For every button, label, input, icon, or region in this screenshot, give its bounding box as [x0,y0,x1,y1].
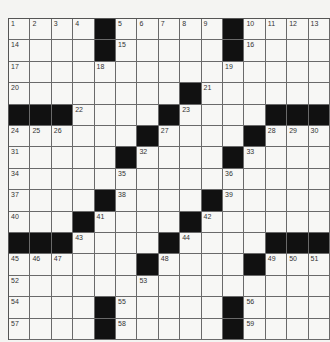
grid-cell[interactable] [52,190,73,211]
grid-cell[interactable] [266,319,287,340]
grid-cell[interactable]: 9 [202,19,223,40]
grid-cell[interactable] [159,169,180,190]
grid-cell[interactable] [73,83,94,104]
grid-cell[interactable] [223,126,244,147]
grid-cell[interactable] [52,40,73,61]
grid-cell[interactable]: 57 [9,319,30,340]
grid-cell[interactable] [202,319,223,340]
grid-cell[interactable] [180,169,201,190]
grid-cell[interactable] [116,254,137,275]
grid-cell[interactable]: 34 [9,169,30,190]
grid-cell[interactable] [73,190,94,211]
grid-cell[interactable] [73,276,94,297]
grid-cell[interactable] [180,190,201,211]
grid-cell[interactable]: 19 [223,62,244,83]
grid-cell[interactable]: 53 [137,276,158,297]
grid-cell[interactable] [52,169,73,190]
grid-cell[interactable]: 16 [244,40,265,61]
grid-cell[interactable]: 45 [9,254,30,275]
grid-cell[interactable]: 6 [137,19,158,40]
grid-cell[interactable]: 40 [9,212,30,233]
grid-cell[interactable] [266,212,287,233]
grid-cell[interactable] [116,62,137,83]
grid-cell[interactable]: 2 [30,19,51,40]
grid-cell[interactable]: 14 [9,40,30,61]
grid-cell[interactable] [180,40,201,61]
grid-cell[interactable] [73,126,94,147]
grid-cell[interactable] [244,212,265,233]
grid-cell[interactable] [116,233,137,254]
grid-cell[interactable] [137,40,158,61]
grid-cell[interactable] [137,212,158,233]
grid-cell[interactable]: 35 [116,169,137,190]
grid-cell[interactable]: 17 [9,62,30,83]
grid-cell[interactable] [180,62,201,83]
grid-cell[interactable] [137,83,158,104]
grid-cell[interactable]: 5 [116,19,137,40]
grid-cell[interactable] [52,297,73,318]
grid-cell[interactable]: 7 [159,19,180,40]
grid-cell[interactable] [266,190,287,211]
grid-cell[interactable]: 41 [95,212,116,233]
grid-cell[interactable] [30,212,51,233]
grid-cell[interactable] [137,105,158,126]
grid-cell[interactable]: 37 [9,190,30,211]
grid-cell[interactable] [244,190,265,211]
grid-cell[interactable]: 10 [244,19,265,40]
grid-cell[interactable] [287,40,308,61]
grid-cell[interactable] [180,297,201,318]
grid-cell[interactable] [116,105,137,126]
grid-cell[interactable]: 15 [116,40,137,61]
grid-cell[interactable] [266,169,287,190]
grid-cell[interactable] [116,83,137,104]
grid-cell[interactable] [73,147,94,168]
grid-cell[interactable] [30,169,51,190]
grid-cell[interactable]: 59 [244,319,265,340]
grid-cell[interactable] [95,147,116,168]
grid-cell[interactable] [287,297,308,318]
grid-cell[interactable]: 55 [116,297,137,318]
grid-cell[interactable]: 27 [159,126,180,147]
grid-cell[interactable]: 56 [244,297,265,318]
grid-cell[interactable] [202,105,223,126]
grid-cell[interactable] [202,276,223,297]
grid-cell[interactable] [309,62,330,83]
grid-cell[interactable] [223,276,244,297]
grid-cell[interactable] [309,297,330,318]
grid-cell[interactable] [223,83,244,104]
grid-cell[interactable]: 29 [287,126,308,147]
grid-cell[interactable] [309,212,330,233]
grid-cell[interactable]: 1 [9,19,30,40]
grid-cell[interactable] [73,297,94,318]
grid-cell[interactable] [202,62,223,83]
grid-cell[interactable] [266,83,287,104]
grid-cell[interactable]: 33 [244,147,265,168]
grid-cell[interactable] [202,254,223,275]
grid-cell[interactable] [244,62,265,83]
grid-cell[interactable]: 20 [9,83,30,104]
grid-cell[interactable] [287,169,308,190]
grid-cell[interactable]: 54 [9,297,30,318]
grid-cell[interactable]: 48 [159,254,180,275]
grid-cell[interactable]: 18 [95,62,116,83]
grid-cell[interactable]: 12 [287,19,308,40]
grid-cell[interactable] [180,147,201,168]
grid-cell[interactable] [137,62,158,83]
grid-cell[interactable] [159,212,180,233]
grid-cell[interactable]: 24 [9,126,30,147]
grid-cell[interactable] [137,190,158,211]
grid-cell[interactable] [202,169,223,190]
grid-cell[interactable]: 50 [287,254,308,275]
grid-cell[interactable] [137,233,158,254]
grid-cell[interactable]: 26 [52,126,73,147]
grid-cell[interactable] [95,83,116,104]
grid-cell[interactable] [52,276,73,297]
grid-cell[interactable]: 42 [202,212,223,233]
grid-cell[interactable] [223,233,244,254]
grid-cell[interactable] [223,105,244,126]
grid-cell[interactable]: 43 [73,233,94,254]
grid-cell[interactable] [287,190,308,211]
grid-cell[interactable] [159,190,180,211]
grid-cell[interactable] [287,147,308,168]
grid-cell[interactable] [180,276,201,297]
